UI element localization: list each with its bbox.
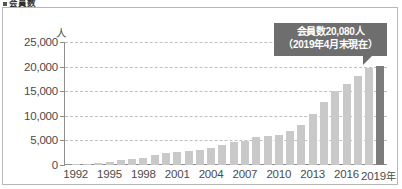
bar [128, 159, 136, 165]
y-axis-tick [60, 165, 65, 166]
bar [376, 66, 384, 165]
bar [139, 158, 147, 165]
bar [297, 125, 305, 165]
x-axis-tick-label: 2013 [300, 168, 325, 180]
x-axis-tick-label: 1995 [97, 168, 122, 180]
bar [241, 141, 249, 165]
x-axis-tick-label: 2001 [165, 168, 190, 180]
y-axis-tick-label: 5,000 [30, 134, 58, 146]
bar [185, 151, 193, 165]
bar [72, 164, 80, 165]
x-axis-tick-label: 1998 [131, 168, 156, 180]
bar [83, 164, 91, 165]
callout-line-1: 会員数20,080人 [278, 26, 383, 39]
bar [207, 148, 215, 165]
bar [354, 76, 362, 165]
callout-annotation: 会員数20,080人 （2019年4月末現在） [274, 23, 387, 56]
y-axis-tick-label: 0 [52, 159, 58, 171]
bar [196, 150, 204, 165]
bar [252, 137, 260, 165]
callout-tail-icon [363, 56, 372, 65]
plot-area: 05,00010,00015,00020,00025,000 199219951… [65, 42, 387, 165]
y-axis-tick-label: 10,000 [24, 110, 58, 122]
bar [230, 142, 238, 165]
x-axis-tick-label: 2016 [334, 168, 359, 180]
chart-panel: 人 05,00010,00015,00020,00025,000 1992199… [2, 7, 398, 185]
bar [309, 114, 317, 165]
bar [275, 135, 283, 166]
bar [331, 91, 339, 165]
bar [320, 102, 328, 165]
y-axis-tick-label: 25,000 [24, 36, 58, 48]
x-axis-tick-label: 1992 [63, 168, 88, 180]
x-axis-tick-label: 2010 [266, 168, 291, 180]
bar [343, 84, 351, 165]
bar [365, 68, 373, 165]
bar [151, 155, 159, 165]
page-title: 会員数 [3, 0, 37, 7]
bar [286, 131, 294, 165]
x-axis-tick-label: 2007 [233, 168, 258, 180]
x-axis-tick-label: 2019年 [361, 168, 396, 183]
bar-series [65, 42, 387, 165]
y-axis-tick-label: 20,000 [24, 61, 58, 73]
x-axis-tick-label: 2004 [199, 168, 224, 180]
bar [264, 136, 272, 165]
bar [173, 152, 181, 165]
bar [117, 160, 125, 165]
bar [94, 163, 102, 165]
callout-line-2: （2019年4月末現在） [278, 39, 383, 52]
y-axis-tick-label: 15,000 [24, 85, 58, 97]
bar [106, 162, 114, 165]
bar [218, 145, 226, 165]
square-bullet-icon [3, 2, 7, 6]
bar [162, 153, 170, 165]
